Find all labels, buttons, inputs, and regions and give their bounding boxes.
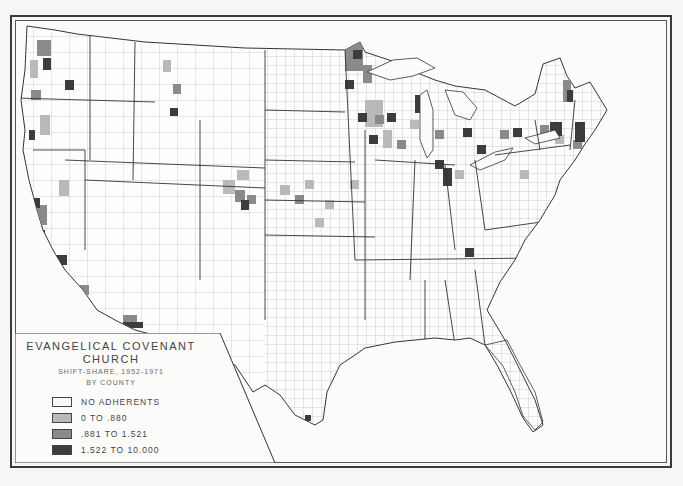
legend-label: 0 TO .880 [81,413,128,423]
legend-subtitle-line2: BY COUNTY [16,379,206,386]
legend-swatch [52,413,72,423]
legend-item-no-adherents: NO ADHERENTS [52,396,160,408]
legend-swatch [52,445,72,455]
map-legend: EVANGELICAL COVENANT CHURCH SHIFT-SHARE,… [16,340,256,462]
legend-item-medium: .881 TO 1.521 [52,428,148,440]
legend-label: 1.522 TO 10.000 [81,445,160,455]
legend-swatch [52,397,72,407]
legend-swatch [52,429,72,439]
legend-item-high: 1.522 TO 10.000 [52,444,160,456]
legend-title: EVANGELICAL COVENANT [16,340,206,352]
legend-item-low: 0 TO .880 [52,412,128,424]
legend-title-line2: CHURCH [16,353,206,365]
legend-label: .881 TO 1.521 [81,429,148,439]
legend-label: NO ADHERENTS [81,397,160,407]
legend-subtitle: SHIFT-SHARE, 1952-1971 [16,368,206,375]
